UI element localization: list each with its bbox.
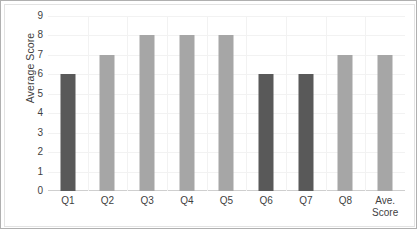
bar[interactable] [60,74,75,191]
y-axis-tick-label: 7 [27,50,43,60]
bar[interactable] [259,74,274,191]
x-axis-tick-label: Q7 [284,195,328,207]
bar-slot [48,16,88,191]
y-axis-tick-label: 4 [27,108,43,118]
bar-slot [326,16,366,191]
bar-slot [167,16,207,191]
chart-canvas: Average Score 0123456789 Q1Q2Q3Q4Q5Q6Q7Q… [4,4,415,227]
bar[interactable] [140,35,155,191]
bar-slot [286,16,326,191]
bar[interactable] [298,74,313,191]
y-axis-tick-label: 9 [27,11,43,21]
x-axis-tick-label: Ave. Score [363,195,407,218]
x-axis-tick-label: Q6 [244,195,288,207]
plot-area [48,16,405,191]
bar-slot [88,16,128,191]
x-axis-tick-label: Q5 [205,195,249,207]
y-axis-tick-label: 6 [27,69,43,79]
y-axis-tick-label: 2 [27,147,43,157]
bar-slot [365,16,405,191]
bar-slot [207,16,247,191]
x-axis-tick-label: Q8 [324,195,368,207]
bar-slot [246,16,286,191]
bar[interactable] [219,35,234,191]
y-axis-tick-label: 3 [27,128,43,138]
x-axis-tick-label: Q4 [165,195,209,207]
y-axis-tick-label: 5 [27,89,43,99]
bar[interactable] [338,55,353,191]
x-axis-tick-label: Q2 [86,195,130,207]
y-axis-tick-label: 1 [27,167,43,177]
bar[interactable] [378,55,393,191]
x-axis-tick-label: Q3 [125,195,169,207]
chart-frame: Average Score 0123456789 Q1Q2Q3Q4Q5Q6Q7Q… [0,0,417,229]
bar[interactable] [100,55,115,191]
y-axis-tick-label: 0 [27,186,43,196]
bar-series [48,16,405,191]
bar[interactable] [179,35,194,191]
y-axis-tick-label: 8 [27,30,43,40]
x-axis-tick-label: Q1 [46,195,90,207]
bar-slot [127,16,167,191]
